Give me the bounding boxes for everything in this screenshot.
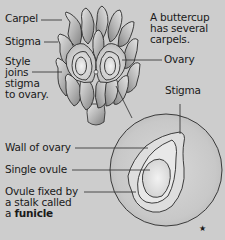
label-stigma-detail: Stigma [165,85,201,96]
label-wall-of-ovary: Wall of ovary [5,142,71,153]
funicle-prefix: a [5,207,14,219]
label-stigma: Stigma [5,36,41,47]
buttercup-diagram: Carpel Stigma Style joins stigma to ovar… [0,0,225,240]
label-funicle-3: a funicle [5,208,53,219]
funicle-term: funicle [14,207,53,219]
style-junction [94,70,98,74]
label-ovary: Ovary [164,54,194,65]
label-single-ovule: Single ovule [5,164,67,175]
star-marker-icon: ★ [199,223,206,234]
label-carpel: Carpel [5,13,38,24]
note-line-3: carpels. [150,34,190,45]
label-style-4: to ovary. [5,89,49,100]
